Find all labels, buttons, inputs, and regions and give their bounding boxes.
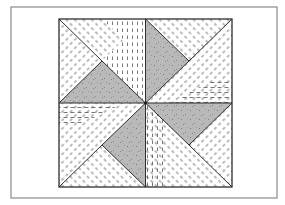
center-point — [144, 101, 147, 104]
quilt-block-diagram — [0, 0, 285, 205]
